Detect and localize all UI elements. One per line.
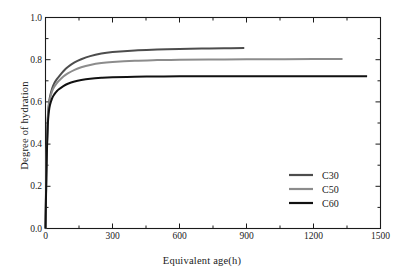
- y-tick-label: 0.4: [30, 139, 42, 149]
- y-axis-title: Degree of hydration: [19, 46, 30, 206]
- legend-label-c50: C50: [322, 184, 339, 195]
- legend-label-c30: C30: [322, 170, 339, 181]
- x-tick-label: 1200: [304, 231, 323, 241]
- x-tick-label: 900: [239, 231, 253, 241]
- x-tick-label: 300: [105, 231, 119, 241]
- y-tick-label: 0.2: [30, 181, 42, 191]
- y-tick-label: 0.6: [30, 97, 42, 107]
- x-tick-label: 600: [172, 231, 186, 241]
- x-tick-label: 1500: [371, 231, 390, 241]
- plot-canvas: [0, 0, 404, 278]
- y-tick-label: 0.0: [30, 224, 42, 234]
- y-tick-label: 1.0: [30, 13, 42, 23]
- series-line-c60: [46, 76, 368, 228]
- legend-label-c60: C60: [322, 198, 339, 209]
- x-tick-label: 0: [43, 231, 48, 241]
- hydration-degree-chart: Equivalent age(h) Degree of hydration 03…: [0, 0, 404, 278]
- y-tick-label: 0.8: [30, 55, 42, 65]
- series-line-c30: [46, 48, 245, 228]
- x-axis-title: Equivalent age(h): [0, 255, 404, 266]
